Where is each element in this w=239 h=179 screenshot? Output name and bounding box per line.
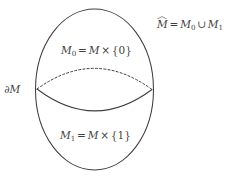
m1-symbol: M [60,129,71,141]
boundary-back-arc-dashed [37,68,152,89]
m0-symbol: M [61,44,72,56]
union-rhs-second-subscript: 1 [219,23,224,32]
m1-base-symbol: M [88,129,99,141]
m1-times-icon: × [98,129,110,141]
m1-set-brace: {1} [111,129,131,141]
m0-equals-sign: = [76,44,88,56]
widehat-group: M [157,19,168,30]
boundary-front-arc-solid [37,89,152,111]
m0-set-brace: {0} [112,44,132,56]
m1-equals-sign: = [75,129,87,141]
m0-times-icon: × [99,44,111,56]
union-operator-icon: ∪ [195,18,207,30]
boundary-base-symbol: M [9,83,20,95]
label-boundary-partial-m: ∂M [4,84,20,95]
label-upper-copy-m0: M0=M×{0} [61,45,132,57]
label-double-union: M=M0∪M1 [157,19,223,31]
union-equals-sign: = [168,18,180,30]
outer-ellipse-manifold-double [36,9,154,170]
m0-base-symbol: M [89,44,100,56]
union-rhs-first-symbol: M [180,18,191,30]
double-of-manifold-figure: M=M0∪M1 M0=M×{0} M1=M×{1} ∂M [0,0,239,179]
label-lower-copy-m1: M1=M×{1} [60,130,131,142]
union-rhs-second-symbol: M [208,18,219,30]
union-lhs-symbol: M [157,18,168,30]
